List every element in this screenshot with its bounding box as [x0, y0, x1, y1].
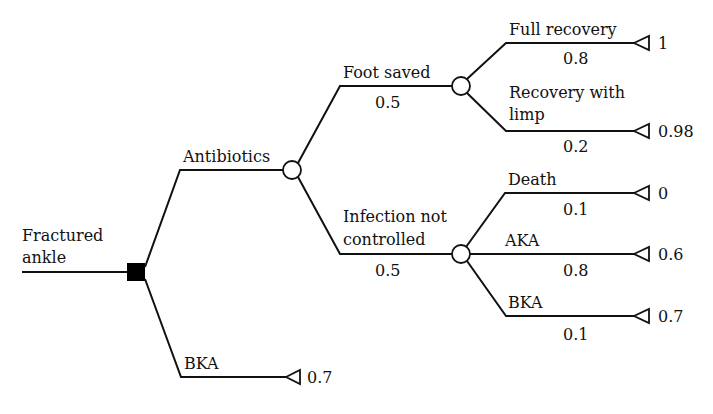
antibiotics-line: [145, 170, 283, 267]
death-line: [466, 193, 634, 247]
terminal-node-icon: [634, 36, 649, 50]
bka-chance-probability: 0.1: [563, 325, 588, 344]
full-recovery-label: Full recovery: [509, 20, 617, 39]
recovery-limp-branch: Recovery with limp 0.2 0.98: [467, 83, 694, 156]
infection-label-line2: controlled: [343, 230, 426, 249]
decision-node-icon: [127, 263, 145, 281]
foot-saved-chance-node-icon: [452, 77, 470, 95]
recovery-limp-label-line1: Recovery with: [509, 83, 625, 102]
full-recovery-utility: 1: [658, 34, 668, 53]
bka-decision-label: BKA: [184, 354, 219, 373]
antibiotics-chance-node-icon: [283, 161, 301, 179]
aka-probability: 0.8: [563, 261, 588, 280]
terminal-node-icon: [634, 247, 649, 261]
death-label: Death: [508, 170, 557, 189]
foot-saved-label: Foot saved: [343, 63, 431, 82]
root-label-line2: ankle: [22, 248, 66, 267]
antibiotics-branch: Antibiotics: [145, 147, 301, 267]
death-probability: 0.1: [563, 200, 588, 219]
recovery-limp-utility: 0.98: [658, 122, 694, 141]
bka-decision-utility: 0.7: [307, 368, 332, 387]
root-label-line1: Fractured: [22, 226, 103, 245]
infection-branch: Infection not controlled 0.5: [298, 177, 470, 280]
foot-saved-probability: 0.5: [375, 93, 400, 112]
terminal-node-icon: [634, 124, 649, 138]
root-branch: Fractured ankle: [22, 226, 145, 281]
terminal-node-icon: [286, 370, 300, 384]
decision-tree: Fractured ankle Antibiotics BKA 0.7 Foot…: [0, 0, 713, 414]
aka-branch: AKA 0.8 0.6: [470, 231, 683, 280]
full-recovery-branch: Full recovery 0.8 1: [467, 20, 668, 79]
infection-probability: 0.5: [375, 261, 400, 280]
recovery-limp-probability: 0.2: [563, 137, 588, 156]
antibiotics-label: Antibiotics: [182, 147, 270, 166]
bka-chance-utility: 0.7: [658, 307, 683, 326]
terminal-node-icon: [634, 186, 649, 200]
death-utility: 0: [658, 184, 668, 203]
full-recovery-probability: 0.8: [563, 49, 588, 68]
infection-label-line1: Infection not: [343, 207, 447, 226]
recovery-limp-label-line2: limp: [509, 105, 545, 124]
foot-saved-branch: Foot saved 0.5: [298, 63, 470, 163]
infection-chance-node-icon: [452, 245, 470, 263]
bka-decision-branch: BKA 0.7: [145, 279, 332, 387]
aka-label: AKA: [504, 231, 540, 250]
aka-utility: 0.6: [658, 245, 683, 264]
full-recovery-line: [467, 43, 634, 79]
terminal-node-icon: [634, 309, 649, 323]
death-branch: Death 0.1 0: [466, 170, 668, 247]
bka-chance-label: BKA: [508, 293, 543, 312]
bka-chance-line: [467, 261, 634, 316]
